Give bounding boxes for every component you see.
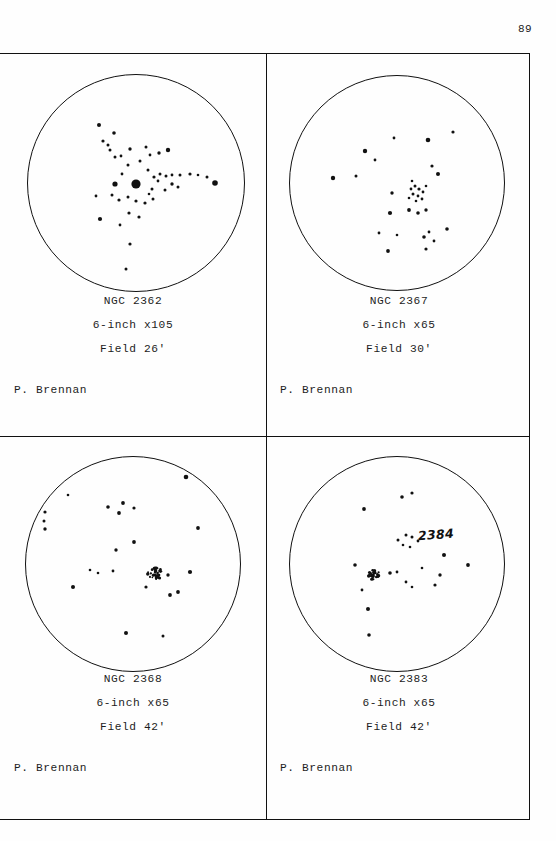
- object-name-label: NGC 2368: [0, 669, 266, 689]
- observation-panel-ngc-2362: NGC 2362 6-inch x105 Field 26' P. Brenna…: [0, 53, 266, 436]
- instrument-label: 6-inch x65: [0, 693, 266, 713]
- observation-panel-ngc-2383: 2384 NGC 2383 6-inch x65 Field 42' P. Br…: [266, 437, 532, 820]
- field-label: Field 42': [0, 717, 266, 737]
- observer-name: P. Brennan: [280, 384, 353, 396]
- instrument-label: 6-inch x65: [266, 315, 532, 335]
- observation-panel-ngc-2368: NGC 2368 6-inch x65 Field 42' P. Brennan: [0, 437, 266, 820]
- object-name-label: NGC 2383: [266, 669, 532, 689]
- handwritten-annotation-2384: 2384: [418, 526, 455, 543]
- instrument-label: 6-inch x105: [0, 315, 266, 335]
- observer-name: P. Brennan: [14, 762, 87, 774]
- object-name-label: NGC 2367: [266, 291, 532, 311]
- star-field: [0, 53, 266, 313]
- field-label: Field 30': [266, 339, 532, 359]
- page-number: 89: [505, 23, 545, 35]
- document-page: 89 NGC 2362 6-inch x105 Field 26' P. Bre…: [0, 0, 556, 841]
- star-field: [266, 53, 532, 313]
- observer-name: P. Brennan: [14, 384, 87, 396]
- star-field: [266, 437, 532, 697]
- observer-name: P. Brennan: [280, 762, 353, 774]
- star-field: [0, 437, 266, 697]
- object-name-label: NGC 2362: [0, 291, 266, 311]
- instrument-label: 6-inch x65: [266, 693, 532, 713]
- field-label: Field 42': [266, 717, 532, 737]
- observation-panel-ngc-2367: NGC 2367 6-inch x65 Field 30' P. Brennan: [266, 53, 532, 436]
- field-label: Field 26': [0, 339, 266, 359]
